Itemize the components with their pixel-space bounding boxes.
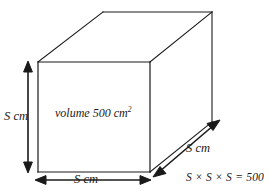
height-label: S cm	[4, 110, 28, 123]
width-arrow-head-right	[140, 176, 151, 185]
edge-depth-top-right	[150, 12, 212, 62]
cube-drawing	[0, 0, 268, 192]
volume-exponent: 2	[128, 105, 132, 114]
width-label: S cm	[74, 173, 98, 186]
cube-diagram: S cm S cm S cm volume 500 cm2 S × S × S …	[0, 0, 268, 192]
height-arrow-head-bottom	[24, 162, 33, 173]
edge-depth-top-left	[38, 12, 103, 62]
height-arrow-head-top	[24, 61, 33, 72]
depth-label: S cm	[186, 142, 210, 155]
volume-label: volume 500 cm2	[55, 107, 131, 119]
volume-label-text: volume 500 cm	[55, 106, 128, 120]
width-arrow-head-left	[35, 176, 46, 185]
equation-label: S × S × S = 500	[186, 172, 264, 184]
